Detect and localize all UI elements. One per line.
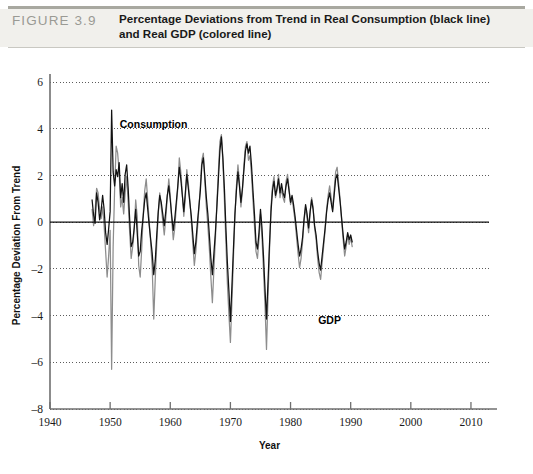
svg-text:2000: 2000 (399, 416, 422, 428)
svg-text:2: 2 (37, 170, 43, 182)
header-bottom-rule (8, 47, 525, 48)
series-gdp-line (92, 135, 352, 370)
series-consumption-line (92, 110, 352, 321)
svg-text:1970: 1970 (219, 416, 242, 428)
svg-text:2010: 2010 (459, 416, 482, 428)
x-axis-title: Year (259, 440, 280, 451)
consumption-label: Consumption (120, 118, 188, 130)
svg-text:1950: 1950 (99, 416, 122, 428)
gdp-label: GDP (318, 314, 341, 326)
y-axis-tick-labels: –8–6–4–20246 (31, 76, 44, 415)
axes (50, 74, 497, 409)
y-axis-title: Percentage Deviation From Trend (11, 166, 22, 326)
svg-text:0: 0 (37, 216, 43, 228)
figure-number: FIGURE 3.9 (12, 13, 97, 28)
svg-text:–8: –8 (31, 403, 44, 415)
chart-area: –8–6–4–20246 194019501960197019801990200… (0, 52, 533, 474)
svg-text:1980: 1980 (279, 416, 302, 428)
svg-text:1990: 1990 (339, 416, 362, 428)
line-chart: –8–6–4–20246 194019501960197019801990200… (0, 52, 533, 474)
svg-text:–4: –4 (31, 310, 44, 322)
svg-text:–2: –2 (31, 263, 44, 275)
svg-text:–6: –6 (31, 356, 44, 368)
svg-text:6: 6 (37, 76, 43, 88)
svg-text:4: 4 (37, 123, 43, 135)
figure-title-line-2: and Real GDP (colored line) (119, 27, 271, 40)
svg-text:1940: 1940 (39, 416, 62, 428)
figure-title-line-1: Percentage Deviations from Trend in Real… (119, 12, 490, 25)
svg-text:1960: 1960 (159, 416, 182, 428)
axis-ticks (50, 402, 471, 409)
figure-title: Percentage Deviations from Trend in Real… (119, 11, 523, 41)
x-axis-tick-labels: 19401950196019701980199020002010 (39, 416, 483, 428)
figure-container: FIGURE 3.9 Percentage Deviations from Tr… (0, 0, 533, 474)
